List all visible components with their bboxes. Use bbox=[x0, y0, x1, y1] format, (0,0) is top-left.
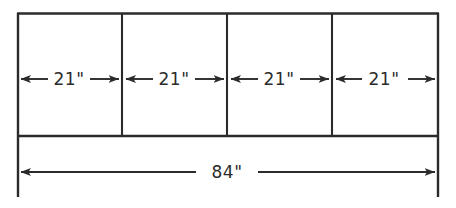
bay-2-label: 21" bbox=[159, 69, 190, 89]
overall-dimension: 84" bbox=[21, 162, 435, 182]
bay-dimension-1: 21" bbox=[21, 69, 119, 89]
diagram-canvas: 21" 21" 21" 21" 84" bbox=[0, 0, 456, 208]
bay-4-label: 21" bbox=[369, 69, 400, 89]
divider-group bbox=[122, 13, 332, 136]
bay-dimension-2: 21" bbox=[126, 69, 224, 89]
bay-dimension-4: 21" bbox=[336, 69, 435, 89]
bay-3-label: 21" bbox=[264, 69, 295, 89]
bay-1-label: 21" bbox=[54, 69, 85, 89]
dimension-diagram: 21" 21" 21" 21" 84" bbox=[0, 0, 456, 208]
overall-label: 84" bbox=[212, 162, 243, 182]
bay-dimension-3: 21" bbox=[231, 69, 329, 89]
